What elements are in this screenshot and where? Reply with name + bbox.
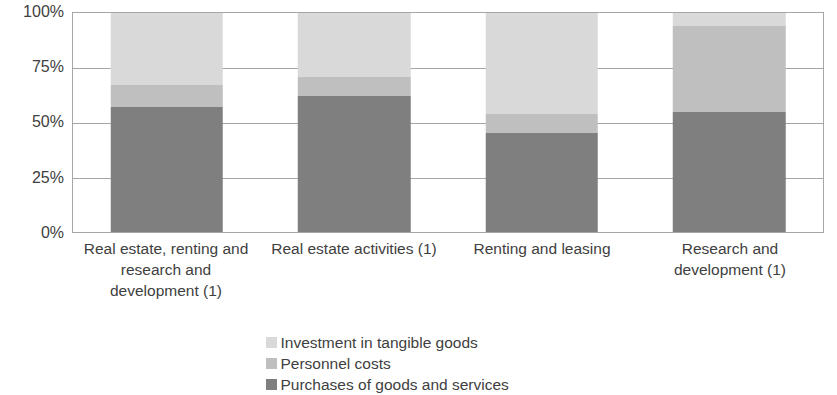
bar-segment[interactable] [111, 85, 224, 107]
x-axis-label: Renting and leasing [448, 238, 636, 308]
bar-slot [73, 13, 261, 232]
legend-swatch-icon [266, 337, 277, 348]
x-axis-label: Real estate, renting and research and de… [72, 238, 260, 308]
stacked-bar[interactable] [298, 13, 411, 232]
bar-slot [261, 13, 449, 232]
bar-segment[interactable] [111, 107, 224, 232]
x-axis-label: Research and development (1) [636, 238, 824, 308]
bars-layer [73, 13, 823, 232]
bar-segment[interactable] [111, 13, 224, 85]
legend-swatch-icon [266, 358, 277, 369]
y-axis: 100% 75% 50% 25% 0% [0, 0, 72, 245]
bar-segment[interactable] [298, 96, 411, 232]
x-axis-category-labels: Real estate, renting and research and de… [72, 238, 824, 308]
plot-area [72, 12, 824, 233]
legend-label: Purchases of goods and services [281, 376, 509, 394]
legend-item[interactable]: Purchases of goods and services [266, 374, 572, 395]
y-tick-label-50: 50% [32, 114, 64, 130]
bar-slot [448, 13, 636, 232]
x-axis-label: Real estate activities (1) [260, 238, 448, 308]
stacked-bar[interactable] [111, 13, 224, 232]
legend-swatch-icon [266, 379, 277, 390]
bar-segment[interactable] [673, 13, 786, 26]
y-tick-label-0: 0% [41, 225, 64, 241]
legend-label: Personnel costs [281, 355, 391, 373]
bar-segment[interactable] [486, 13, 599, 114]
y-tick-label-25: 25% [32, 170, 64, 186]
bar-segment[interactable] [298, 77, 411, 97]
stacked-bar-chart: 100% 75% 50% 25% 0% Real estate, renting… [0, 0, 837, 395]
bar-segment[interactable] [486, 133, 599, 232]
y-tick-label-75: 75% [32, 59, 64, 75]
legend-item[interactable]: Investment in tangible goods [266, 332, 572, 353]
bar-segment[interactable] [673, 112, 786, 232]
bar-segment[interactable] [673, 26, 786, 111]
bar-slot [636, 13, 824, 232]
bar-segment[interactable] [486, 114, 599, 134]
bar-segment[interactable] [298, 13, 411, 77]
legend-label: Investment in tangible goods [281, 334, 478, 352]
legend: Investment in tangible goodsPersonnel co… [0, 332, 837, 395]
y-tick-label-100: 100% [23, 4, 64, 20]
stacked-bar[interactable] [673, 13, 786, 232]
stacked-bar[interactable] [486, 13, 599, 232]
legend-item[interactable]: Personnel costs [266, 353, 572, 374]
